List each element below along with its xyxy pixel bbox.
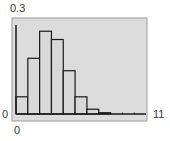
histogram-bar [28, 58, 40, 114]
histogram-plot [0, 0, 170, 141]
x-axis-min-label: 0 [14, 125, 20, 136]
histogram-bar [40, 31, 52, 114]
y-axis-min-label: 0 [2, 109, 8, 120]
x-axis-max-label: 11 [153, 109, 164, 120]
histogram-bar [75, 97, 87, 114]
histogram-bar [63, 71, 75, 114]
histogram-bar [51, 40, 63, 114]
y-axis-max-label: 0.3 [10, 3, 25, 14]
histogram-bar [16, 97, 28, 114]
